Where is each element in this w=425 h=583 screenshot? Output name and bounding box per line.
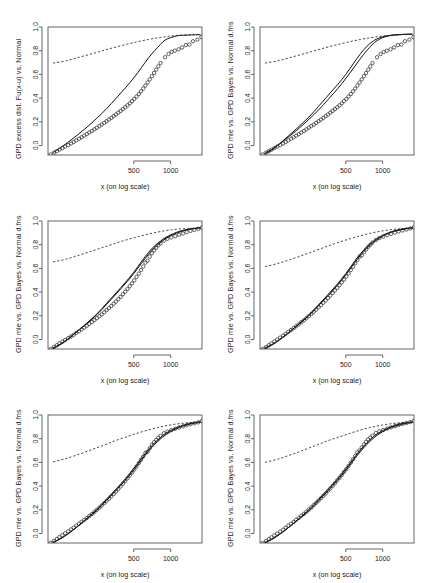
data-layer xyxy=(261,34,415,156)
data-point-marker xyxy=(139,268,142,271)
plot-canvas: 0.00.20.40.60.81.05001000 xyxy=(212,0,424,195)
y-tick-label: 0.0 xyxy=(244,141,251,151)
data-point-marker xyxy=(408,38,411,41)
data-point-marker xyxy=(261,153,264,156)
data-point-marker xyxy=(119,109,122,112)
data-point-marker xyxy=(142,265,145,268)
data-point-marker xyxy=(146,81,149,84)
x-tick-label: 500 xyxy=(128,361,140,368)
y-tick-label: 0.2 xyxy=(244,505,251,515)
data-point-marker xyxy=(364,71,367,74)
data-points xyxy=(49,226,204,351)
data-point-marker xyxy=(148,78,151,81)
x-tick-label: 500 xyxy=(128,555,140,562)
x-axis: 5001000 xyxy=(340,355,391,368)
x-tick-label: 1000 xyxy=(375,361,390,368)
plot-frame xyxy=(48,221,202,349)
data-points xyxy=(49,419,204,544)
y-axis: 0.00.20.40.60.81.0 xyxy=(32,216,42,344)
normal-dashed-curve xyxy=(53,35,200,64)
plot-canvas: 0.00.20.40.60.81.05001000 xyxy=(0,194,212,389)
data-points xyxy=(261,35,415,156)
y-tick-label: 1.0 xyxy=(244,216,251,226)
y-tick-label: 0.4 xyxy=(32,287,39,297)
x-axis: 5001000 xyxy=(128,549,179,562)
data-point-marker xyxy=(157,65,160,68)
y-axis: 0.00.20.40.60.81.0 xyxy=(244,410,254,538)
plot-canvas: 0.00.20.40.60.81.05001000 xyxy=(0,0,212,195)
data-point-marker xyxy=(371,61,374,64)
y-axis: 0.00.20.40.60.81.0 xyxy=(244,22,254,150)
data-point-marker xyxy=(367,438,370,441)
data-point-marker xyxy=(200,35,203,38)
data-point-marker xyxy=(130,282,133,285)
x-axis: 5001000 xyxy=(340,161,391,174)
data-point-marker xyxy=(126,104,129,107)
x-axis-label: x (on log scale) xyxy=(38,376,212,385)
data-point-marker xyxy=(117,111,120,114)
data-layer xyxy=(49,419,204,544)
plot-panel-3: 0.00.20.40.60.81.05001000GPD mle vs. GPD… xyxy=(0,194,212,389)
data-point-marker xyxy=(331,109,334,112)
y-tick-label: 0.8 xyxy=(32,240,39,250)
y-tick-label: 1.0 xyxy=(32,410,39,420)
y-tick-label: 0.4 xyxy=(244,481,251,491)
data-point-marker xyxy=(191,40,194,43)
data-point-marker xyxy=(342,278,345,281)
y-axis-label: GPD mle vs. GPD Bayes vs. Normal d.fns xyxy=(226,21,235,159)
y-tick-label: 0.0 xyxy=(32,335,39,345)
data-point-marker xyxy=(412,35,415,38)
fitted-solid-curve xyxy=(265,34,412,154)
normal-dashed-curve xyxy=(265,35,412,64)
data-point-marker xyxy=(375,56,378,59)
data-point-marker xyxy=(144,84,147,87)
data-point-marker xyxy=(385,49,388,52)
data-point-marker xyxy=(360,78,363,81)
plot-canvas: 0.00.20.40.60.81.05001000 xyxy=(212,194,424,389)
y-tick-label: 0.4 xyxy=(32,481,39,491)
y-tick-label: 0.2 xyxy=(244,311,251,321)
data-point-marker xyxy=(181,232,184,235)
data-point-marker xyxy=(124,106,127,109)
plot-frame xyxy=(48,27,202,155)
x-axis-label: x (on log scale) xyxy=(250,570,424,579)
data-layer xyxy=(261,226,416,351)
data-point-marker xyxy=(180,46,183,49)
data-point-marker xyxy=(336,106,339,109)
y-tick-label: 0.0 xyxy=(244,335,251,345)
y-tick-label: 0.8 xyxy=(244,46,251,56)
y-axis-label: GPD mle vs. GPD Bayes vs. Normal d.fns xyxy=(226,409,235,547)
y-tick-label: 0.4 xyxy=(244,287,251,297)
y-axis-label: GPD mle vs. GPD Bayes vs. Normal d.fns xyxy=(14,215,23,353)
data-point-marker xyxy=(389,48,392,51)
data-points xyxy=(261,226,416,351)
figure-grid: 0.00.20.40.60.81.05001000GPD excess dist… xyxy=(0,0,425,583)
y-axis-label: GPD mle vs. GPD Bayes vs. Normal d.fns xyxy=(14,409,23,547)
data-points xyxy=(49,35,203,156)
y-tick-label: 0.6 xyxy=(244,263,251,273)
fitted-solid-curve xyxy=(53,228,200,349)
x-tick-label: 1000 xyxy=(163,167,178,174)
data-point-marker xyxy=(133,279,136,282)
data-point-marker xyxy=(400,43,403,46)
normal-dashed-curve xyxy=(265,228,412,267)
plot-panel-4: 0.00.20.40.60.81.05001000GPD mle vs. GPD… xyxy=(212,194,424,389)
data-point-marker xyxy=(329,111,332,114)
data-point-marker xyxy=(174,234,177,237)
y-tick-label: 1.0 xyxy=(244,22,251,32)
data-point-marker xyxy=(177,48,180,51)
data-point-marker xyxy=(173,49,176,52)
data-point-marker xyxy=(167,52,170,55)
data-point-marker xyxy=(148,255,151,258)
y-tick-label: 0.4 xyxy=(244,93,251,103)
data-point-marker xyxy=(358,81,361,84)
x-axis-label: x (on log scale) xyxy=(38,182,212,191)
x-axis: 5001000 xyxy=(128,161,179,174)
data-point-marker xyxy=(188,43,191,46)
y-tick-label: 1.0 xyxy=(32,22,39,32)
y-tick-label: 0.2 xyxy=(32,505,39,515)
y-tick-label: 0.0 xyxy=(32,529,39,539)
data-points xyxy=(261,419,416,544)
x-axis-label: x (on log scale) xyxy=(250,376,424,385)
x-axis-label: x (on log scale) xyxy=(250,182,424,191)
